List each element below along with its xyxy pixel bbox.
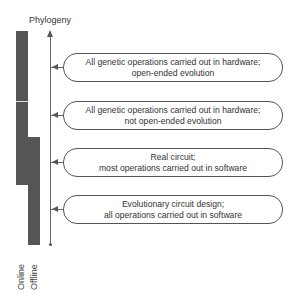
level-box-hardware-open-ended: All genetic operations carried out in ha… [63, 53, 283, 82]
level-box-evolutionary-design: Evolutionary circuit design; all operati… [63, 195, 283, 224]
arrow-left-icon [52, 159, 58, 165]
online-bar [16, 31, 28, 185]
level-text-line1: All genetic operations carried out in ha… [86, 105, 261, 116]
level-text-line2: all operations carried out in software [104, 210, 242, 221]
online-label: Online [16, 264, 26, 290]
arrow-left-icon [52, 112, 58, 118]
offline-bar [28, 137, 40, 245]
level-box-hardware-not-open-ended: All genetic operations carried out in ha… [63, 101, 283, 130]
level-text-line1: Evolutionary circuit design; [122, 199, 224, 210]
axis-title: Phylogeny [29, 15, 71, 25]
level-box-real-circuit: Real circuit; most operations carried ou… [63, 148, 283, 177]
level-text-line2: open-ended evolution [132, 68, 215, 79]
arrow-left-icon [52, 206, 58, 212]
level-text-line1: Real circuit; [151, 152, 196, 163]
online-bar-divider [16, 101, 28, 102]
offline-label: Offline [29, 264, 39, 290]
level-text-line1: All genetic operations carried out in ha… [86, 57, 261, 68]
level-text-line2: not open-ended evolution [125, 116, 222, 127]
axis-origin-dot [49, 243, 52, 246]
level-text-line2: most operations carried out in software [99, 163, 247, 174]
arrow-left-icon [52, 64, 58, 70]
